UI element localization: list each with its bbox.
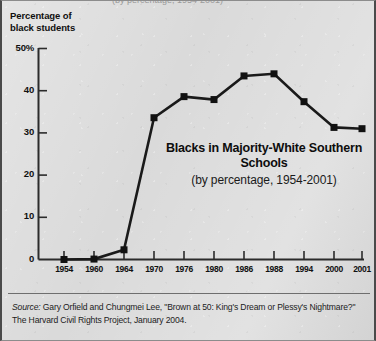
x-tick-label-2001: 2001: [345, 264, 376, 274]
y-tick-label-50: 50%: [4, 42, 34, 53]
x-tick-label-1954: 1954: [47, 264, 81, 274]
y-tick-label-20: 20: [4, 168, 34, 179]
data-point-1994: [301, 98, 308, 105]
data-point-1976: [181, 93, 188, 100]
y-tick-label-10: 10: [4, 210, 34, 221]
x-tick-label-1964: 1964: [107, 264, 141, 274]
data-point-2001: [359, 125, 366, 132]
data-point-1970: [151, 114, 158, 121]
x-tick-label-1970: 1970: [137, 264, 171, 274]
chart-subtitle-text: (by percentage, 1954-2001): [160, 172, 368, 188]
data-point-1964: [121, 246, 128, 253]
chart-title-text: Blacks in Majority-White Southern School…: [160, 141, 368, 171]
source-text: Gary Orfield and Chungmei Lee, "Brown at…: [12, 302, 355, 325]
data-point-1980: [211, 96, 218, 103]
chart-title-block: Blacks in Majority-White Southern School…: [160, 141, 368, 188]
data-point-1954: [61, 256, 68, 263]
x-tick-label-1976: 1976: [167, 264, 201, 274]
data-point-2000: [331, 124, 338, 131]
x-tick-label-1986: 1986: [227, 264, 261, 274]
x-tick-label-1960: 1960: [77, 264, 111, 274]
source-label: Source:: [12, 302, 41, 312]
x-tick-label-1994: 1994: [287, 264, 321, 274]
source-divider: [8, 293, 370, 294]
x-tick-label-1988: 1988: [257, 264, 291, 274]
y-tick-label-0: 0: [4, 253, 34, 264]
y-tick-label-30: 30: [4, 126, 34, 137]
data-point-1986: [241, 72, 248, 79]
chart-figure: (by percentage, 1954-2001) Percentage of…: [0, 0, 376, 341]
y-axis-ticks: [39, 49, 48, 218]
x-tick-label-1980: 1980: [197, 264, 231, 274]
source-note: Source: Gary Orfield and Chungmei Lee, "…: [12, 301, 368, 326]
data-point-1988: [271, 70, 278, 77]
data-point-1960: [91, 256, 98, 263]
y-tick-label-40: 40: [4, 84, 34, 95]
